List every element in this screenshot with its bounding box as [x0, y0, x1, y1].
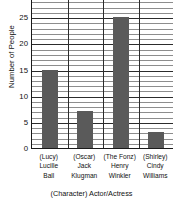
y-axis-tick-label: 10	[12, 93, 28, 101]
plot-area	[31, 0, 173, 149]
bar	[113, 17, 129, 148]
x-axis-category-label: (Shirley)CindyWilliams	[130, 152, 181, 180]
bar-chart: Number of People 051015202530 (Lucy)Luci…	[0, 0, 183, 204]
y-axis-tick-label: 15	[12, 67, 28, 75]
x-axis-category-label-line: Williams	[130, 171, 181, 180]
x-axis-title: (Character) Actor/Actress	[0, 189, 183, 198]
x-axis-category-label-line: (Shirley)	[130, 152, 181, 161]
y-axis-tick-label: 20	[12, 40, 28, 48]
y-axis-tick-label: 25	[12, 14, 28, 22]
x-axis-category-label-line: Cindy	[130, 161, 181, 170]
y-axis-tick-label: 5	[12, 119, 28, 127]
x-axis-category-labels: (Lucy)LucilleBall(Oscar)JackKlugman(The …	[31, 152, 172, 186]
bar	[42, 70, 58, 149]
bars	[32, 0, 173, 148]
bar	[77, 111, 93, 148]
bar	[148, 132, 164, 148]
